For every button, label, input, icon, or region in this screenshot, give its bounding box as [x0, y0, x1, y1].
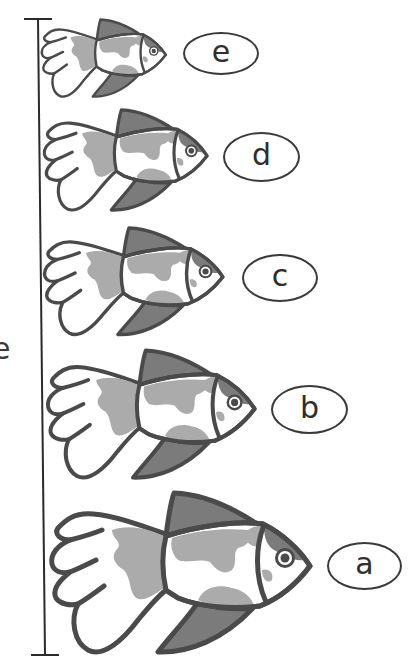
scale-bar-label: e [0, 331, 10, 366]
label-d: d [223, 132, 300, 182]
label-b: b [271, 385, 348, 434]
fish-b [48, 350, 255, 477]
fish-d [44, 110, 207, 210]
label-e: e [183, 32, 259, 75]
label-c: c [242, 254, 318, 302]
label-a: a [327, 542, 402, 590]
fish-e [42, 19, 166, 96]
fish-a [52, 493, 310, 652]
fish-c [45, 228, 223, 335]
